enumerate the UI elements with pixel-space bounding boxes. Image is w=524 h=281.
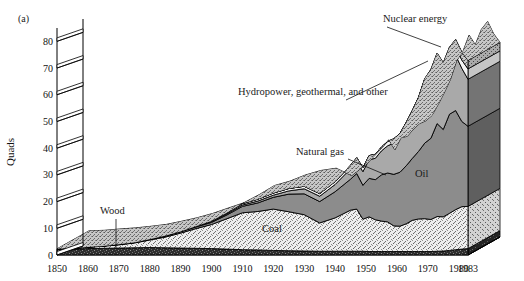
x-tick-1930: 1930 <box>294 263 314 274</box>
x-tick-1910: 1910 <box>232 263 252 274</box>
ann-oil: Oil <box>415 168 429 179</box>
y-tick-50: 50 <box>43 116 53 127</box>
y-tick-0: 0 <box>48 250 53 261</box>
x-tick-1870: 1870 <box>109 263 129 274</box>
y-axis-title: Quads <box>4 138 16 166</box>
x-tick-1890: 1890 <box>171 263 191 274</box>
x-tick-1940: 1940 <box>325 263 345 274</box>
y-tick-10: 10 <box>43 223 53 234</box>
x-tick-1970: 1970 <box>418 263 438 274</box>
y-tick-30: 30 <box>43 169 53 180</box>
x-tick-1900: 1900 <box>202 263 222 274</box>
y-tick-60: 60 <box>43 89 53 100</box>
y-tick-20: 20 <box>43 196 53 207</box>
x-tick-1850: 1850 <box>47 263 67 274</box>
x-tick-1860: 1860 <box>78 263 98 274</box>
x-tick-1983: 1983 <box>458 263 478 274</box>
y-tick-80: 80 <box>43 36 53 47</box>
figure-canvas: 01020304050607080 1850186018701880189019… <box>0 0 524 281</box>
ann-nuclear: Nuclear energy <box>383 13 448 24</box>
x-tick-1950: 1950 <box>356 263 376 274</box>
stacked-area-chart: 01020304050607080 1850186018701880189019… <box>0 0 524 281</box>
ann-natgas: Natural gas <box>296 146 344 157</box>
y-tick-40: 40 <box>43 143 53 154</box>
ann-wood: Wood <box>100 205 126 216</box>
x-tick-1920: 1920 <box>263 263 283 274</box>
x-tick-1960: 1960 <box>387 263 407 274</box>
y-tick-70: 70 <box>43 63 53 74</box>
ann-hydro: Hydropower, geothermal, and other <box>238 86 388 97</box>
y-tick-labels: 01020304050607080 <box>43 36 53 261</box>
ann-coal: Coal <box>262 223 282 234</box>
panel-label: (a) <box>18 13 29 25</box>
x-tick-1880: 1880 <box>140 263 160 274</box>
